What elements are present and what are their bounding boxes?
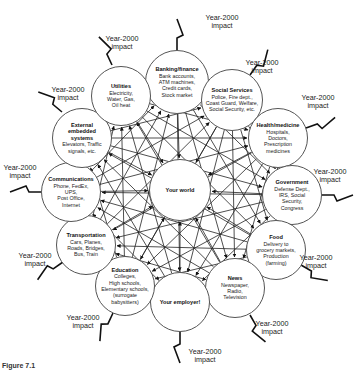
node-employer-title: Your employer!	[160, 299, 201, 305]
node-government-desc-line: Congress	[281, 205, 304, 211]
node-health-desc-line: medicines	[266, 148, 290, 154]
impact-label-utilities: Year-2000impact	[102, 35, 142, 52]
impact-label-line2: impact	[63, 322, 103, 330]
impact-label-transportation: Year-2000impact	[15, 252, 55, 269]
node-banking: Banking/financeBank accounts,ATM machine…	[145, 50, 209, 114]
impact-label-employer: Year-2000impact	[185, 348, 225, 365]
node-education-desc-line: babysitters)	[111, 299, 138, 305]
lightning-bolt-icon	[10, 186, 41, 192]
node-communications-desc-line: Internet	[62, 202, 80, 208]
node-utilities-desc-line: Oil heat	[112, 102, 130, 108]
node-embedded-desc-line: signals, etc.	[68, 148, 96, 154]
impact-label-embedded: Year-2000impact	[48, 86, 88, 103]
lightning-bolt-icon	[177, 19, 183, 50]
impact-label-line2: impact	[296, 262, 336, 270]
impact-label-news: Year-2000impact	[252, 320, 292, 337]
impact-label-line2: impact	[102, 43, 142, 51]
lightning-bolt-icon	[322, 195, 353, 201]
impact-label-education: Year-2000impact	[63, 314, 103, 331]
impact-label-line2: impact	[202, 22, 242, 30]
lightning-bolt-icon	[306, 117, 335, 128]
impact-label-banking: Year-2000impact	[202, 14, 242, 31]
figure-caption: Figure 7.1	[2, 362, 35, 369]
impact-label-line2: impact	[310, 176, 350, 184]
impact-label-health: Year-2000impact	[298, 94, 338, 111]
node-your-world-title: Your world	[166, 187, 195, 193]
node-transportation-desc-line: Bus, Train	[74, 251, 98, 257]
node-news-desc-line: Television	[223, 294, 246, 300]
impact-label-food: Year-2000impact	[296, 254, 336, 271]
node-news: NewsNewspaper,Radio,Television	[205, 258, 265, 318]
impact-label-line2: impact	[0, 172, 40, 180]
node-utilities: UtilitiesElectricity,Water, Gas,Oil heat	[91, 66, 151, 126]
impact-label-line2: impact	[242, 67, 282, 75]
impact-label-government: Year-2000impact	[310, 168, 350, 185]
node-health: Health/medicineHospitals,Doctors,Prescri…	[248, 108, 308, 168]
node-your-world: Your world	[149, 159, 211, 221]
node-social-desc-line: Social Security, etc.	[209, 106, 255, 112]
node-banking-desc-line: Stock market	[162, 92, 193, 98]
impact-label-communications: Year-2000impact	[0, 164, 40, 181]
node-food-desc-line: (farming)	[265, 260, 286, 266]
impact-label-social: Year-2000impact	[242, 59, 282, 76]
impact-label-line2: impact	[15, 260, 55, 268]
lightning-bolt-icon	[174, 332, 180, 363]
impact-label-line2: impact	[252, 328, 292, 336]
node-embedded-title: External embedded systems	[62, 122, 102, 141]
impact-label-line2: impact	[185, 356, 225, 364]
node-transportation: TransportationCars, Planes,Roads, Bridge…	[56, 215, 116, 275]
node-employer: Your employer!	[150, 272, 210, 332]
impact-label-line2: impact	[298, 102, 338, 110]
impact-label-line2: impact	[48, 94, 88, 102]
node-communications: CommunicationsPhone, FedEx,UPS,Post Offi…	[41, 162, 101, 222]
